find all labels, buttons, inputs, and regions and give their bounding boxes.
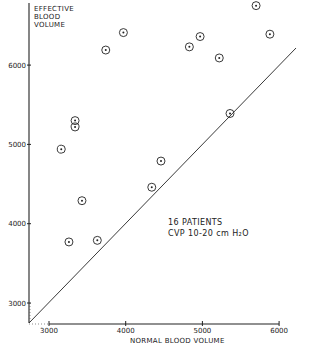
y-tick-label: 3000	[8, 300, 26, 308]
point-dot	[151, 186, 153, 188]
data-point	[65, 238, 73, 246]
data-point	[252, 2, 260, 10]
data-points	[57, 2, 274, 246]
axes	[29, 3, 279, 324]
x-tick-label: 6000	[270, 327, 288, 335]
point-dot	[188, 46, 190, 48]
data-point	[196, 33, 204, 41]
x-axis-label: NORMAL BLOOD VOLUME	[130, 337, 225, 345]
data-point	[148, 183, 156, 191]
data-point	[185, 43, 193, 51]
x-tick-label: 3000	[40, 327, 58, 335]
data-point	[157, 157, 165, 165]
point-dot	[122, 32, 124, 34]
point-dot	[269, 33, 271, 35]
point-dot	[199, 36, 201, 38]
point-dot	[229, 112, 231, 114]
data-point	[119, 29, 127, 37]
y-axis-label-line-3: VOLUME	[34, 21, 65, 29]
y-axis-label-line-1: EFFECTIVE	[34, 5, 74, 13]
identity-line-path	[29, 48, 296, 323]
identity-line	[29, 48, 296, 323]
point-dot	[96, 239, 98, 241]
data-point	[102, 46, 110, 54]
data-point	[93, 236, 101, 244]
scatter-chart: 30004000500060003000400050006000 EFFECTI…	[0, 0, 309, 351]
annotation-line-1: 16 PATIENTS	[168, 218, 223, 227]
point-dot	[255, 5, 257, 7]
data-point	[215, 54, 223, 62]
y-tick-label: 5000	[8, 141, 26, 149]
point-dot	[68, 241, 70, 243]
axis-labels: EFFECTIVE BLOOD VOLUME NORMAL BLOOD VOLU…	[34, 5, 249, 345]
point-dot	[160, 160, 162, 162]
data-point	[71, 123, 79, 131]
data-point	[266, 30, 274, 38]
tick-labels: 30004000500060003000400050006000	[8, 62, 288, 335]
x-tick-label: 5000	[193, 327, 211, 335]
y-tick-label: 4000	[8, 220, 26, 228]
data-point	[71, 117, 79, 125]
point-dot	[74, 126, 76, 128]
x-tick-label: 4000	[117, 327, 135, 335]
point-dot	[81, 200, 83, 202]
point-dot	[218, 57, 220, 59]
point-dot	[105, 49, 107, 51]
point-dot	[74, 120, 76, 122]
annotation-line-2: CVP 10-20 cm H₂O	[168, 229, 249, 238]
y-axis-label-line-2: BLOOD	[34, 13, 60, 21]
data-point	[78, 197, 86, 205]
data-point	[57, 145, 65, 153]
point-dot	[60, 148, 62, 150]
y-tick-label: 6000	[8, 62, 26, 70]
